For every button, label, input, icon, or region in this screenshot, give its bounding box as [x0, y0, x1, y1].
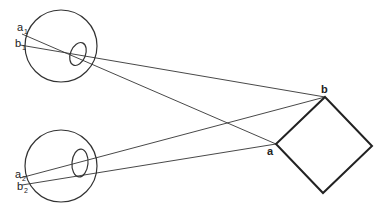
label-a1-sub: 1	[24, 28, 28, 35]
label-a2: a	[15, 168, 22, 180]
binocular-disparity-diagram: a 1 b 1 a 2 b 2 b a	[0, 0, 389, 210]
top-lens	[67, 40, 90, 68]
label-a1: a	[17, 21, 24, 33]
label-b1-sub: 1	[22, 44, 26, 51]
ray-a-to-b2	[22, 144, 276, 185]
label-b1: b	[15, 37, 21, 49]
light-rays	[20, 34, 325, 185]
bottom-eye	[25, 130, 97, 202]
bottom-eyeball	[25, 130, 97, 202]
label-b2: b	[17, 180, 23, 192]
label-b2-sub: 2	[24, 187, 28, 194]
top-eyeball	[25, 10, 97, 82]
ray-b-to-b1	[20, 45, 325, 97]
label-square-a: a	[267, 145, 274, 157]
top-eye	[25, 10, 97, 82]
label-square-b: b	[321, 83, 328, 95]
ray-b-to-a2	[20, 97, 325, 178]
ray-a-to-a1	[22, 34, 276, 144]
bottom-lens	[71, 148, 89, 177]
square-object	[276, 97, 372, 193]
